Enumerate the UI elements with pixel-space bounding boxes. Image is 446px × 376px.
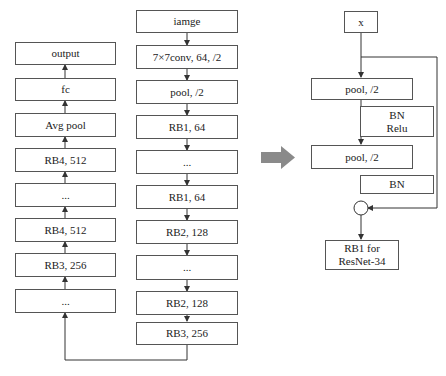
- box-label: RB3, 256: [166, 327, 208, 340]
- transform-arrow-icon: [261, 146, 295, 169]
- box-label: iamge: [174, 15, 201, 28]
- box-label: RB2, 128: [166, 226, 208, 239]
- mid-box-rb1-64-a: RB1, 64: [136, 115, 238, 139]
- mid-box-pool: pool, /2: [136, 80, 238, 104]
- box-label-line2: Relu: [387, 122, 408, 135]
- box-label-line1: BN: [389, 109, 404, 122]
- mid-box-ellipsis-b: ...: [136, 255, 238, 280]
- box-label: ...: [183, 156, 191, 169]
- box-label: ...: [183, 261, 191, 274]
- mid-box-image: iamge: [136, 10, 238, 33]
- box-label: BN: [389, 178, 404, 191]
- box-label: pool, /2: [345, 83, 379, 96]
- box-label-line1: RB1 for: [344, 242, 380, 255]
- box-label: x: [358, 16, 364, 29]
- box-label: RB4, 512: [44, 224, 86, 237]
- mid-box-rb2-128-b: RB2, 128: [136, 291, 238, 315]
- box-label: Avg pool: [45, 119, 85, 132]
- right-box-bn: BN: [360, 175, 434, 194]
- box-label: RB1, 64: [169, 191, 206, 204]
- right-box-bn-relu: BN Relu: [360, 106, 434, 137]
- box-label: RB1, 64: [169, 121, 206, 134]
- box-label: pool, /2: [170, 86, 204, 99]
- mid-box-rb3-256: RB3, 256: [136, 322, 238, 345]
- box-label: 7×7conv, 64, /2: [153, 51, 221, 64]
- mid-box-rb2-128-a: RB2, 128: [136, 220, 238, 244]
- resnet-diagram: output fc Avg pool RB4, 512 ... RB4, 512…: [0, 0, 446, 376]
- box-label: ...: [61, 295, 69, 308]
- box-label: pool, /2: [345, 151, 379, 164]
- left-box-rb4-512-a: RB4, 512: [15, 148, 116, 172]
- left-box-rb3-256: RB3, 256: [15, 253, 116, 277]
- right-box-pool-2: pool, /2: [311, 145, 413, 169]
- box-label: RB4, 512: [44, 154, 86, 167]
- mid-box-ellipsis-a: ...: [136, 150, 238, 174]
- left-box-fc: fc: [15, 78, 116, 101]
- mid-box-conv7x7: 7×7conv, 64, /2: [136, 45, 238, 69]
- right-box-input-x: x: [344, 11, 378, 33]
- left-box-rb4-512-b: RB4, 512: [15, 218, 116, 242]
- mid-box-rb1-64-b: RB1, 64: [136, 185, 238, 209]
- box-label: RB2, 128: [166, 297, 208, 310]
- box-label-line2: ResNet-34: [338, 255, 385, 268]
- box-label: output: [51, 47, 79, 60]
- left-box-ellipsis-b: ...: [15, 289, 116, 313]
- box-label: fc: [61, 83, 70, 96]
- left-box-output: output: [15, 42, 116, 65]
- left-box-ellipsis-a: ...: [15, 183, 116, 207]
- right-box-pool-1: pool, /2: [311, 78, 413, 100]
- box-label: ...: [61, 189, 69, 202]
- right-box-rb1-output: RB1 for ResNet-34: [325, 240, 399, 270]
- left-box-avg-pool: Avg pool: [15, 113, 116, 137]
- box-label: RB3, 256: [44, 259, 86, 272]
